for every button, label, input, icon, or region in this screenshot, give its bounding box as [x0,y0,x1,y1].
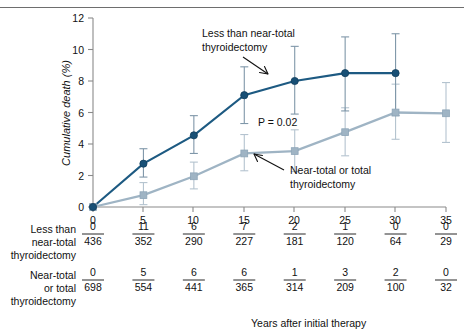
less-than-near-total-error-bars [139,34,399,177]
risk-numerator: 1 [292,266,298,278]
risk-numerator: 11 [138,220,149,232]
risk-denominator: 290 [185,235,203,247]
risk-denominator: 436 [84,235,102,247]
annotation-less-than-near-total-line2: thyroidectomy [202,41,268,53]
risk-row-label: or total [44,282,76,294]
data-point [190,173,197,180]
data-point [342,129,349,136]
risk-numerator: 2 [292,220,298,232]
data-point [140,192,147,199]
risk-denominator: 352 [135,235,153,247]
risk-denominator: 120 [336,235,354,247]
p-value-annotation: P = 0.02 [258,116,297,128]
risk-numerator: 0 [443,266,449,278]
risk-numerator: 0 [90,266,96,278]
data-point [241,92,248,99]
annotation-arrow-near-total-or-total [254,154,284,170]
numbers-at-risk-table: Less thannear-totalthyroidectomy04361135… [0,219,464,332]
risk-denominator: 314 [286,281,304,293]
risk-denominator: 698 [84,281,102,293]
figure-container: Cumulative death (%) 12 10 8 6 4 2 0 [0,0,464,332]
risk-row-label: Near-total [30,269,76,281]
risk-numerator: 6 [191,266,197,278]
annotation-near-total-or-total-line2: thyroidectomy [290,178,356,190]
data-point [392,70,399,77]
risk-numerator: 1 [342,220,348,232]
risk-numerator: 0 [443,220,449,232]
risk-numerator: 2 [393,266,399,278]
risk-row-label: Less than [30,223,76,235]
risk-denominator: 227 [236,235,254,247]
data-point [392,109,399,116]
risk-numerator: 5 [141,266,147,278]
data-point [190,132,197,139]
data-point [291,148,298,155]
risk-row-label: thyroidectomy [11,249,77,261]
risk-row-label: near-total [32,236,76,248]
risk-numerator: 6 [191,220,197,232]
ytick-0: 0 [78,201,84,213]
data-point [241,150,248,157]
data-point [89,203,96,210]
data-point [342,70,349,77]
ytick-2: 2 [78,170,84,182]
risk-numerator: 6 [241,266,247,278]
data-point [140,160,147,167]
risk-denominator: 441 [185,281,203,293]
annotation-less-than-near-total-line1: Less than near-total [202,27,295,39]
risk-denominator: 209 [336,281,354,293]
risk-denominator: 554 [135,281,153,293]
annotation-arrow-less-than-near-total [243,57,268,74]
risk-denominator: 100 [387,281,405,293]
y-axis-ticks: 12 10 8 6 4 2 0 [72,12,93,213]
risk-numerator: 0 [393,220,399,232]
ytick-10: 10 [72,44,84,56]
risk-denominator: 29 [440,235,452,247]
ytick-4: 4 [78,138,84,150]
risk-row-label: thyroidectomy [11,295,77,307]
risk-denominator: 64 [390,235,402,247]
annotation-near-total-or-total-line1: Near-total or total [290,164,371,176]
data-point [291,77,298,84]
risk-denominator: 32 [440,281,452,293]
data-point [443,110,450,117]
risk-numerator: 3 [342,266,348,278]
ytick-6: 6 [78,107,84,119]
risk-denominator: 181 [286,235,304,247]
risk-numerator: 0 [90,220,96,232]
risk-denominator: 365 [236,281,254,293]
cumulative-death-line-chart: Cumulative death (%) 12 10 8 6 4 2 0 [0,0,464,225]
ytick-12: 12 [72,12,84,24]
ytick-8: 8 [78,75,84,87]
x-axis-title: Years after initial therapy [251,317,367,329]
y-axis-label: Cumulative death (%) [60,60,72,166]
risk-numerator: 7 [241,220,247,232]
